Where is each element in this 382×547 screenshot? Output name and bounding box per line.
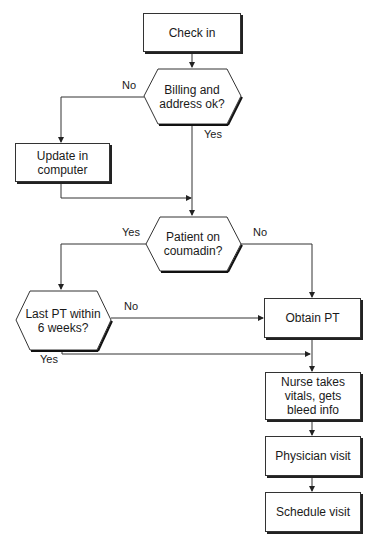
obtain-pt-label: Obtain PT [285,311,339,325]
schedule-step: Schedule visit [265,492,361,532]
physician-label: Physician visit [275,449,350,463]
update-step: Update in computer [15,143,110,182]
coumadin-yes-label: Yes [122,226,140,238]
nurse-step: Nurse takes vitals, gets bleed info [265,372,361,420]
coumadin-decision: Patient on coumadin? [145,216,241,272]
last-pt-label: Last PT within 6 weeks? [23,307,103,335]
coumadin-no-label: No [253,226,267,238]
update-label: Update in computer [23,149,103,177]
billing-yes-label: Yes [204,128,222,140]
last-pt-decision: Last PT within 6 weeks? [15,290,111,351]
check-in-step: Check in [143,13,241,52]
physician-step: Physician visit [265,436,361,476]
coumadin-label: Patient on coumadin? [158,230,228,258]
billing-decision: Billing and address ok? [143,68,241,125]
schedule-label: Schedule visit [276,505,350,519]
check-in-label: Check in [169,26,216,40]
nurse-label: Nurse takes vitals, gets bleed info [273,375,353,417]
last-pt-yes-label: Yes [40,353,58,365]
obtain-pt-step: Obtain PT [264,298,361,338]
billing-no-label: No [122,79,136,91]
last-pt-no-label: No [124,300,138,312]
billing-label: Billing and address ok? [152,83,232,111]
